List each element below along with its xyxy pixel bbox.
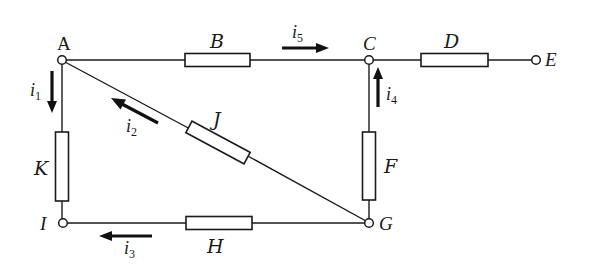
- label-node-c: C: [363, 33, 376, 54]
- label-resistor-f: F: [383, 155, 398, 177]
- arrow-i4-icon: [373, 67, 383, 107]
- node-g: [365, 219, 374, 228]
- label-node-i: I: [39, 213, 48, 234]
- wires: [62, 60, 532, 223]
- label-i4: i4: [386, 84, 397, 107]
- resistor-k: [56, 132, 69, 201]
- label-i2: i2: [126, 116, 137, 139]
- label-node-e: E: [544, 49, 557, 70]
- arrow-i5-icon: [282, 43, 329, 53]
- node-a: [58, 56, 67, 65]
- resistor-h: [186, 217, 252, 230]
- label-resistor-h: H: [206, 235, 224, 257]
- resistors: [56, 54, 489, 230]
- wire-j-g: [246, 155, 366, 221]
- label-i3: i3: [124, 238, 135, 261]
- resistor-d: [421, 54, 488, 67]
- label-resistor-k: K: [33, 157, 50, 179]
- label-i5: i5: [292, 22, 303, 45]
- label-i1: i1: [30, 80, 41, 103]
- node-c: [365, 56, 374, 65]
- label-node-a: A: [57, 33, 71, 54]
- circuit-diagram: A C E I G B D K F H J i1 i2 i3 i4 i5: [0, 0, 590, 268]
- arrow-i1-icon: [47, 71, 57, 113]
- resistor-b: [185, 54, 250, 67]
- node-i: [59, 219, 68, 228]
- nodes: [58, 56, 541, 228]
- arrow-i2-icon: [111, 98, 158, 123]
- label-node-g: G: [379, 213, 393, 234]
- label-resistor-d: D: [443, 30, 459, 52]
- resistor-f: [363, 132, 376, 200]
- label-resistor-j: J: [209, 108, 222, 130]
- node-e: [532, 56, 541, 65]
- label-resistor-b: B: [209, 30, 224, 52]
